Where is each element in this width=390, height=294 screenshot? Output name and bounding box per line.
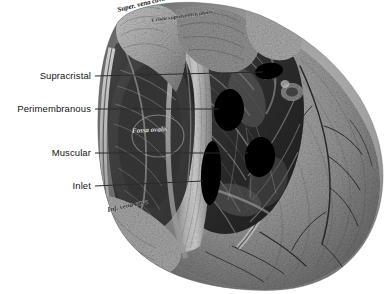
annotation-label-muscular: Muscular xyxy=(52,147,91,158)
annotation-label-perimembranous: Perimembranous xyxy=(17,103,91,114)
annotation-label-inlet: Inlet xyxy=(73,180,91,191)
engraved-caption: Crista supraventricularis xyxy=(151,8,214,23)
engraved-caption: Inf. vena cava xyxy=(106,197,149,214)
caption-superior-vena-cava: Super. vena cava xyxy=(117,0,167,14)
vsd-anatomical-figure: Super. vena cava Crista supraventricular… xyxy=(0,0,390,294)
annotation-label-supracristal: Supracristal xyxy=(40,70,91,81)
engraved-caption: Super. vena cava xyxy=(117,0,167,14)
engraved-caption: Fossa ovalis xyxy=(132,125,168,135)
caption-inferior-vena-cava: Inf. vena cava xyxy=(106,197,149,214)
caption-fossa-ovalis: Fossa ovalis xyxy=(132,125,168,135)
caption-crista-supraventricularis: Crista supraventricularis xyxy=(151,8,214,23)
